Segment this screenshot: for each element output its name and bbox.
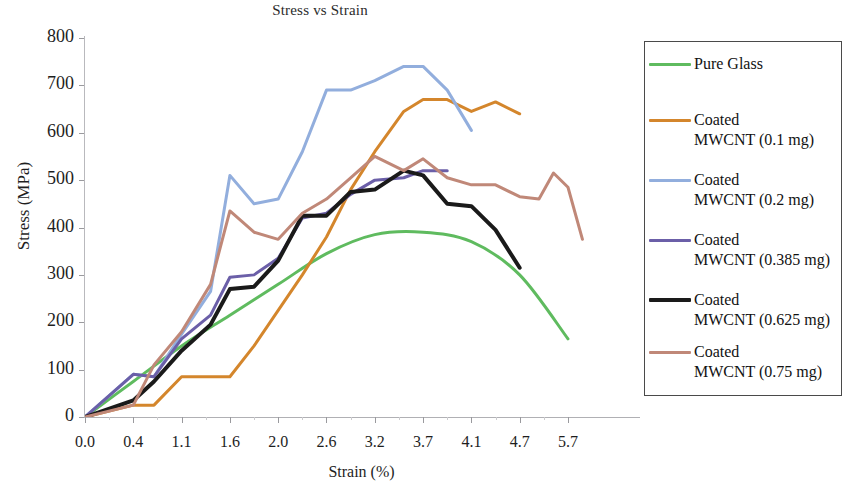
legend-label: Coated MWCNT (0.1 mg) [694, 110, 814, 150]
legend-label: Coated MWCNT (0.385 mg) [694, 230, 830, 270]
legend-swatch-icon [649, 179, 691, 182]
legend-item-5[interactable]: Coated MWCNT (0.75 mg) [649, 342, 822, 382]
x-tick-label: 0.4 [110, 433, 156, 451]
legend: Pure GlassCoated MWCNT (0.1 mg)Coated MW… [644, 41, 842, 396]
x-minor-tick [496, 417, 497, 420]
legend-item-0[interactable]: Pure Glass [649, 54, 763, 74]
y-tick-label: 100 [24, 359, 74, 377]
x-minor-tick [447, 417, 448, 420]
y-tick-label: 300 [24, 264, 74, 282]
x-tick-mark [471, 417, 472, 423]
y-tick-label: 200 [24, 311, 74, 329]
legend-label: Coated MWCNT (0.625 mg) [694, 290, 830, 330]
x-tick-mark [182, 417, 183, 423]
x-minor-tick [399, 417, 400, 420]
x-tick-mark [278, 417, 279, 423]
x-minor-tick [544, 417, 545, 420]
x-tick-mark [423, 417, 424, 423]
legend-item-3[interactable]: Coated MWCNT (0.385 mg) [649, 230, 830, 270]
x-axis-title: Strain (%) [85, 463, 638, 481]
series-line-4 [85, 171, 520, 417]
x-tick-label: 4.7 [497, 433, 543, 451]
legend-swatch-icon [649, 298, 691, 302]
legend-swatch-icon [649, 239, 691, 242]
x-tick-label: 1.1 [159, 433, 205, 451]
legend-item-1[interactable]: Coated MWCNT (0.1 mg) [649, 110, 814, 150]
y-tick-label: 700 [24, 74, 74, 92]
legend-label: Coated MWCNT (0.2 mg) [694, 170, 814, 210]
series-lines [85, 38, 638, 417]
x-tick-label: 4.1 [448, 433, 494, 451]
x-minor-tick [109, 417, 110, 420]
x-minor-tick [302, 417, 303, 420]
x-tick-mark [230, 417, 231, 423]
y-tick-label: 400 [24, 217, 74, 235]
series-line-0 [85, 232, 568, 417]
x-minor-tick [351, 417, 352, 420]
x-tick-mark [133, 417, 134, 423]
legend-item-2[interactable]: Coated MWCNT (0.2 mg) [649, 170, 814, 210]
x-tick-mark [568, 417, 569, 423]
y-tick-label: 600 [24, 122, 74, 140]
series-line-2 [85, 66, 471, 417]
x-tick-mark [520, 417, 521, 423]
y-tick-label: 800 [24, 27, 74, 45]
chart-root: Stress vs Strain Stress (MPa) 8007006005… [0, 0, 847, 491]
x-tick-label: 3.7 [400, 433, 446, 451]
x-tick-label: 5.7 [545, 433, 591, 451]
legend-swatch-icon [649, 63, 691, 66]
x-tick-mark [326, 417, 327, 423]
legend-swatch-icon [649, 351, 691, 354]
legend-label: Coated MWCNT (0.75 mg) [694, 342, 822, 382]
x-axis-line [84, 417, 640, 418]
legend-label: Pure Glass [694, 54, 763, 74]
y-tick-label: 500 [24, 169, 74, 187]
x-tick-label: 3.2 [352, 433, 398, 451]
x-minor-tick [157, 417, 158, 420]
legend-item-4[interactable]: Coated MWCNT (0.625 mg) [649, 290, 830, 330]
legend-swatch-icon [649, 119, 691, 122]
x-tick-label: 0.0 [62, 433, 108, 451]
plot-area [85, 38, 638, 417]
chart-title: Stress vs Strain [0, 2, 640, 19]
x-minor-tick [254, 417, 255, 420]
x-tick-label: 1.6 [207, 433, 253, 451]
x-tick-label: 2.0 [255, 433, 301, 451]
x-tick-label: 2.6 [303, 433, 349, 451]
y-tick-label: 0 [24, 406, 74, 424]
x-minor-tick [206, 417, 207, 420]
x-tick-mark [85, 417, 86, 423]
x-tick-mark [375, 417, 376, 423]
